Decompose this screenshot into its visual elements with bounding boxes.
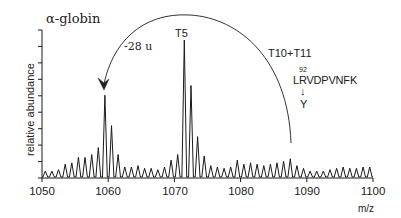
shift-arrow: [98, 15, 291, 143]
curved-arrow-line: [104, 15, 291, 143]
spectrum-line: [42, 40, 373, 177]
x-axis-unit: m/z: [358, 204, 374, 214]
y-axis-label: relative abundance: [25, 50, 36, 170]
x-tick-1050: 1050: [22, 186, 62, 198]
x-tick-1060: 1060: [88, 186, 128, 198]
x-tick-1080: 1080: [221, 186, 261, 198]
x-tick-1090: 1090: [287, 186, 327, 198]
peak-label-t10-t11: T10+T11: [268, 48, 312, 59]
chart-title: α-globin: [46, 12, 100, 25]
mutation-arrow-icon: ↓: [300, 86, 306, 97]
axes: [38, 30, 373, 182]
x-tick-1070: 1070: [155, 186, 195, 198]
mass-shift-label: -28 u: [124, 41, 152, 52]
residue-number: 92: [299, 66, 307, 73]
x-tick-1100: 1100: [353, 186, 393, 198]
arrowhead-icon: [98, 78, 109, 90]
mutation-residue: Y: [300, 99, 307, 110]
peak-label-t5: T5: [175, 28, 188, 39]
